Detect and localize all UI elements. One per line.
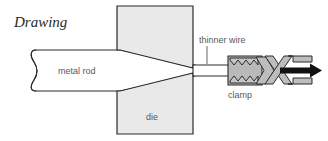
page-title: Drawing — [13, 14, 68, 30]
metal-rod-label: metal rod — [58, 66, 96, 76]
clamp-group: clamp — [228, 56, 312, 100]
clamp-label: clamp — [228, 90, 252, 100]
die-label: die — [146, 112, 158, 122]
diagram-canvas: die thinner wire — [0, 0, 328, 141]
drawing-process-figure: die thinner wire — [0, 0, 328, 141]
thinner-wire-label: thinner wire — [199, 35, 246, 45]
